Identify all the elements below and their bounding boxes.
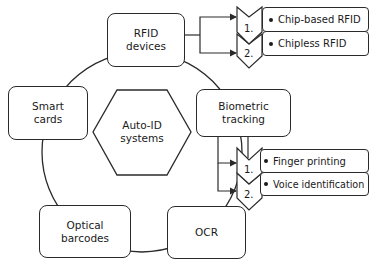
bullet-icon — [264, 159, 268, 163]
biometric-type-1-number: 1. — [244, 164, 254, 175]
node-biometric-tracking: Biometric tracking — [196, 89, 291, 137]
node-biometric-line1: Biometric — [218, 100, 268, 113]
node-ocr-line1: OCR — [195, 226, 218, 239]
center-label-line2: systems — [120, 132, 163, 145]
rfid-type-2-number: 2. — [244, 48, 254, 59]
node-smart-line1: Smart — [32, 100, 64, 113]
bullet-icon — [269, 18, 273, 22]
rfid-type-1-number: 1. — [244, 23, 254, 34]
node-rfid-devices: RFID devices — [107, 13, 185, 67]
rfid-type-1: Chip-based RFID — [262, 7, 369, 32]
node-smart-line2: cards — [34, 113, 62, 126]
node-biometric-line2: tracking — [222, 113, 265, 126]
rfid-type-2-label: Chipless RFID — [278, 38, 346, 49]
bullet-icon — [264, 182, 268, 186]
node-rfid-line2: devices — [126, 40, 166, 53]
node-optical-line1: Optical — [66, 219, 103, 232]
rfid-type-2: Chipless RFID — [262, 31, 369, 56]
node-ocr: OCR — [167, 206, 246, 259]
biometric-type-2: Voice identification — [260, 172, 369, 196]
node-smart-cards: Smart cards — [8, 86, 88, 140]
node-optical-line2: barcodes — [61, 232, 109, 245]
biometric-type-2-number: 2. — [244, 189, 254, 200]
biometric-chevrons — [237, 148, 262, 210]
rfid-connectors — [185, 17, 236, 53]
bullet-icon — [269, 42, 273, 46]
biometric-type-1-label: Finger printing — [273, 156, 346, 167]
biometric-type-1: Finger printing — [260, 149, 369, 173]
rfid-type-1-label: Chip-based RFID — [278, 14, 361, 25]
biometric-type-2-label: Voice identification — [273, 179, 364, 190]
node-optical-barcodes: Optical barcodes — [39, 205, 131, 258]
node-rfid-line1: RFID — [134, 27, 159, 40]
center-label-line1: Auto-ID — [122, 119, 162, 132]
center-label: Auto-ID systems — [100, 112, 184, 152]
